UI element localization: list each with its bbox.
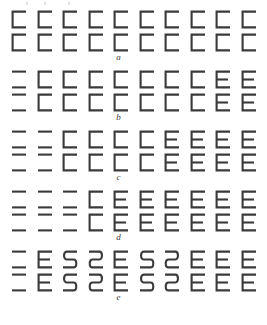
glyph-e-icon: [215, 250, 232, 269]
rows-container: abcde: [0, 10, 267, 303]
glyph-c-icon: [190, 93, 207, 112]
glyph-equals-icon: [62, 213, 79, 232]
glyph-e-icon: [241, 70, 258, 89]
glyph-c-icon: [88, 190, 105, 209]
glyph-e-icon: [139, 190, 156, 209]
glyph-c-icon: [215, 10, 232, 29]
glyph-c-icon: [88, 70, 105, 89]
glyph-c-icon: [62, 33, 79, 52]
glyph-s-icon: [62, 250, 79, 269]
row-spacer: [0, 243, 267, 250]
glyph-c-icon: [164, 93, 181, 112]
row-label-e: e: [0, 292, 267, 303]
glyph-c-icon: [88, 213, 105, 232]
glyph-c-icon: [164, 70, 181, 89]
glyph-c-icon: [62, 130, 79, 149]
row-spacer: [0, 63, 267, 70]
glyph-s_mirrored-icon: [164, 273, 181, 292]
glyph-c-icon: [113, 70, 130, 89]
glyph-line: [0, 213, 267, 232]
row-label-a: a: [0, 52, 267, 63]
glyph-c-icon: [113, 153, 130, 172]
glyph-e-icon: [215, 130, 232, 149]
glyph-c-icon: [37, 93, 54, 112]
glyph-e-icon: [241, 190, 258, 209]
glyph-e-icon: [164, 213, 181, 232]
glyph-c-icon: [11, 10, 28, 29]
glyph-s_mirrored-icon: [164, 250, 181, 269]
glyph-c-icon: [164, 33, 181, 52]
stimulus-row-d: d: [0, 190, 267, 243]
glyph-equals-icon: [11, 190, 28, 209]
glyph-e-icon: [215, 273, 232, 292]
glyph-c-icon: [88, 130, 105, 149]
glyph-e-icon: [215, 213, 232, 232]
glyph-e-icon: [139, 213, 156, 232]
glyph-e-icon: [113, 273, 130, 292]
glyph-c-icon: [215, 33, 232, 52]
glyph-equals-icon: [11, 273, 28, 292]
glyph-c-icon: [139, 33, 156, 52]
glyph-c-icon: [139, 70, 156, 89]
glyph-equals-icon: [62, 190, 79, 209]
glyph-e-icon: [190, 190, 207, 209]
row-spacer: [0, 183, 267, 190]
glyph-c-icon: [113, 33, 130, 52]
row-spacer: [0, 123, 267, 130]
stimulus-row-a: a: [0, 10, 267, 63]
top-spacer: [0, 0, 267, 10]
glyph-e-icon: [190, 153, 207, 172]
glyph-c-icon: [37, 33, 54, 52]
glyph-line: [0, 153, 267, 172]
glyph-e-icon: [113, 190, 130, 209]
glyph-c-icon: [88, 93, 105, 112]
glyph-s-icon: [139, 273, 156, 292]
glyph-equals-icon: [11, 70, 28, 89]
row-label-d: d: [0, 232, 267, 243]
glyph-c-icon: [62, 70, 79, 89]
glyph-line: [0, 130, 267, 149]
glyph-s-icon: [139, 250, 156, 269]
glyph-c-icon: [164, 10, 181, 29]
glyph-c-icon: [139, 130, 156, 149]
glyph-s_mirrored-icon: [88, 250, 105, 269]
glyph-e-icon: [190, 130, 207, 149]
glyph-e-icon: [113, 213, 130, 232]
glyph-equals-icon: [37, 213, 54, 232]
glyph-e-icon: [215, 93, 232, 112]
glyph-c-icon: [88, 153, 105, 172]
glyph-c-icon: [62, 10, 79, 29]
glyph-e-icon: [241, 250, 258, 269]
glyph-e-icon: [215, 153, 232, 172]
glyph-equals-icon: [37, 153, 54, 172]
glyph-e-icon: [241, 93, 258, 112]
stimulus-row-c: c: [0, 130, 267, 183]
glyph-c-icon: [88, 10, 105, 29]
stimulus-row-e: e: [0, 250, 267, 303]
glyph-line: [0, 70, 267, 89]
glyph-e-icon: [190, 273, 207, 292]
glyph-e-icon: [215, 70, 232, 89]
glyph-e-icon: [37, 250, 54, 269]
glyph-line: [0, 250, 267, 269]
glyph-c-icon: [113, 130, 130, 149]
glyph-c-icon: [139, 93, 156, 112]
glyph-e-icon: [241, 213, 258, 232]
glyph-e-icon: [241, 273, 258, 292]
stimulus-row-b: b: [0, 70, 267, 123]
glyph-c-icon: [113, 93, 130, 112]
glyph-e-icon: [113, 250, 130, 269]
glyph-e-icon: [241, 130, 258, 149]
row-label-c: c: [0, 172, 267, 183]
glyph-c-icon: [190, 70, 207, 89]
glyph-equals-icon: [11, 250, 28, 269]
glyph-c-icon: [62, 93, 79, 112]
glyph-equals-icon: [11, 153, 28, 172]
glyph-c-icon: [11, 33, 28, 52]
glyph-s-icon: [62, 273, 79, 292]
glyph-equals-icon: [11, 213, 28, 232]
glyph-e-icon: [190, 250, 207, 269]
glyph-c-icon: [190, 33, 207, 52]
glyph-line: [0, 273, 267, 292]
glyph-c-icon: [241, 33, 258, 52]
